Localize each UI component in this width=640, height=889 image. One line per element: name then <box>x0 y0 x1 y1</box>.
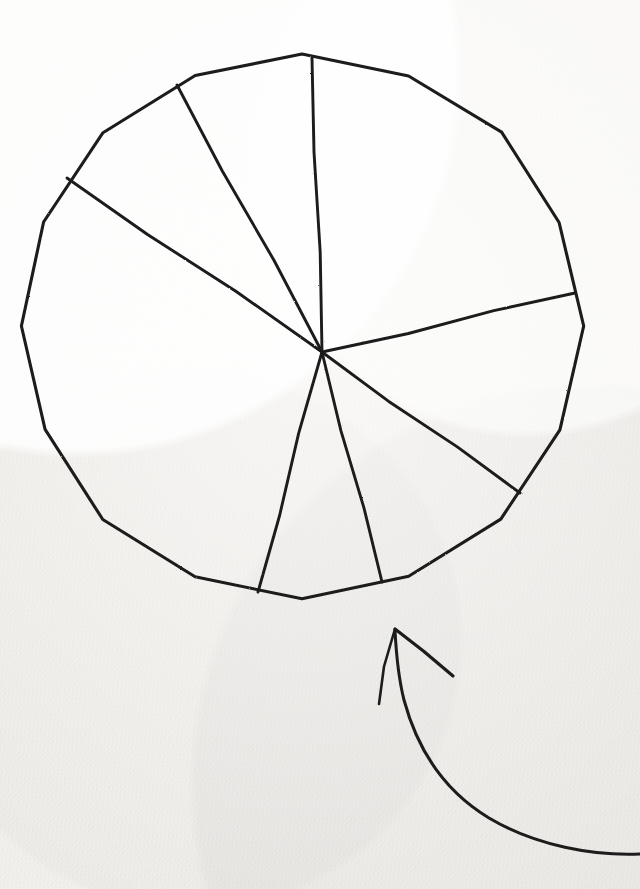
ink-drawing-layer <box>0 0 640 889</box>
arrow-head-barb-right <box>395 629 453 676</box>
arrow-head-barb-left <box>379 629 395 704</box>
pie-spoke-down <box>322 352 382 582</box>
pie-spoke-lower-left <box>258 352 322 592</box>
pie-outline-circle <box>21 54 583 599</box>
pointer-arrow <box>379 629 640 854</box>
pie-spoke-right <box>322 293 575 352</box>
pie-spoke-left <box>67 178 322 352</box>
sketch-page: false <box>0 0 640 889</box>
pie-spoke-upper-left <box>177 85 322 352</box>
arrow-tail <box>395 630 640 854</box>
pie-chart <box>21 54 583 599</box>
pie-spoke-up <box>312 58 322 352</box>
